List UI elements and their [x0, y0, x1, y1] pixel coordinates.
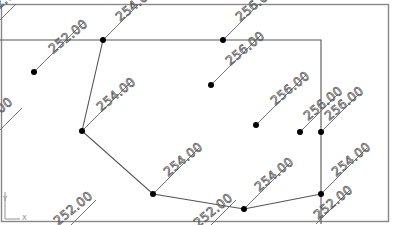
survey-point[interactable] — [241, 206, 247, 212]
survey-point[interactable] — [253, 122, 259, 128]
drawing-canvas[interactable]: 252.00 254.00 256.00 256.00 254.00 256.0… — [0, 0, 393, 225]
elevation-label: 256.00 — [267, 68, 312, 108]
elevation-label: 252.00 — [50, 188, 95, 225]
survey-point[interactable] — [318, 191, 324, 197]
elevation-label: 256.00 — [232, 0, 277, 24]
elevation-label: 252.00 — [0, 0, 23, 22]
elevation-label: 254.00 — [93, 74, 138, 114]
survey-point[interactable] — [150, 191, 156, 197]
elevation-annotation[interactable]: 254.00 — [103, 0, 157, 40]
ucs-x-label: X — [22, 214, 27, 222]
drawing-viewport[interactable]: 252.00 254.00 256.00 256.00 254.00 256.0… — [0, 0, 393, 225]
elevation-label: 254.00 — [160, 139, 205, 179]
elevation-annotation[interactable]: 256.00 — [211, 28, 267, 85]
elevation-label: 254.00 — [328, 139, 373, 179]
elevation-annotation[interactable]: 252.00 — [34, 16, 90, 72]
survey-point[interactable] — [31, 69, 37, 75]
elevation-annotation[interactable]: 252.00 — [310, 182, 355, 224]
boundary-line[interactable] — [0, 40, 321, 224]
survey-point[interactable] — [100, 37, 106, 43]
survey-points — [31, 37, 324, 212]
ucs-icon: Y X — [2, 192, 27, 222]
elevation-label: 254.00 — [251, 154, 296, 194]
elevation-annotation[interactable]: 254.00 — [153, 139, 205, 194]
survey-point[interactable] — [318, 129, 324, 135]
survey-point[interactable] — [208, 82, 214, 88]
elevation-annotation[interactable]: 252.00 — [0, 94, 22, 140]
survey-point[interactable] — [297, 129, 303, 135]
elevation-annotation[interactable]: 254.00 — [82, 74, 138, 131]
elevation-label: 252.00 — [310, 182, 355, 222]
elevation-annotation[interactable]: 252.00 — [190, 190, 236, 225]
survey-point[interactable] — [220, 37, 226, 43]
ucs-y-label: Y — [2, 195, 8, 203]
elevation-label: 252.00 — [45, 16, 90, 56]
elevation-label: 254.00 — [112, 0, 157, 24]
elevation-annotation[interactable]: 252.00 — [50, 188, 96, 225]
contour-polyline[interactable] — [82, 40, 321, 209]
survey-point[interactable] — [79, 128, 85, 134]
